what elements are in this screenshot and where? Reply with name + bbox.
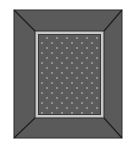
picture-frame-graphic — [0, 0, 127, 150]
picture-area — [39, 35, 101, 115]
picture-frame-icon — [0, 0, 127, 150]
